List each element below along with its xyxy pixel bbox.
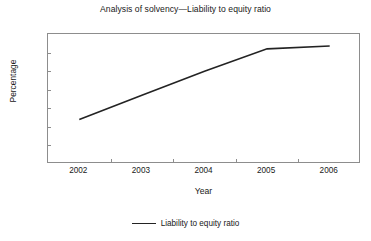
line-marker-icon: [132, 223, 156, 224]
y-tick-mark: [48, 127, 51, 128]
x-axis-title: Year: [47, 186, 360, 196]
series-line-liability-to-equity-ratio: [79, 46, 329, 119]
x-tick-mark: [111, 159, 112, 162]
x-tick-mark: [173, 159, 174, 162]
x-tick-label: 2003: [119, 166, 163, 175]
y-tick-mark: [48, 90, 51, 91]
y-axis-title: Percentage: [8, 41, 18, 121]
x-tick-mark: [298, 159, 299, 162]
y-tick-mark: [48, 108, 51, 109]
x-tick-mark: [236, 159, 237, 162]
x-tick-label: 2006: [307, 166, 351, 175]
y-tick-mark: [48, 53, 51, 54]
y-tick-mark: [48, 145, 51, 146]
x-tick-label: 2005: [244, 166, 288, 175]
chart-legend: Liability to equity ratio: [0, 219, 371, 228]
chart-title: Analysis of solvency—Liability to equity…: [0, 4, 371, 14]
legend-item-label: Liability to equity ratio: [161, 219, 240, 228]
y-tick-mark: [48, 71, 51, 72]
legend-item: Liability to equity ratio: [132, 219, 240, 228]
data-line-group: [48, 34, 361, 164]
x-tick-label: 2004: [182, 166, 226, 175]
plot-area: [47, 33, 360, 163]
x-tick-label: 2002: [56, 166, 100, 175]
